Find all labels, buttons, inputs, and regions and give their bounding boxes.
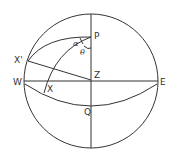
label-z: Z <box>94 70 100 80</box>
label-p: P <box>94 31 100 41</box>
label-x-prime: X' <box>14 55 23 65</box>
label-theta: θ <box>80 48 85 57</box>
label-x: X <box>47 84 53 94</box>
celestial-sphere-diagram: P Z W E Q X' X α θ <box>0 0 175 157</box>
line-xprime-z <box>28 61 91 80</box>
label-e: E <box>160 77 166 87</box>
label-w: W <box>13 77 22 87</box>
theta-angle-arc <box>84 46 91 49</box>
label-q: Q <box>84 107 91 117</box>
label-alpha: α <box>73 39 79 48</box>
